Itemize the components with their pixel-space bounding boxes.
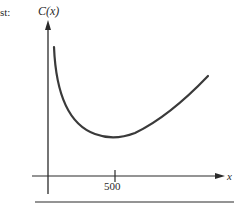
cost-curve <box>54 47 208 137</box>
cost-curve-chart <box>0 0 234 205</box>
y-axis-arrow-icon <box>45 20 51 30</box>
x-axis-label: x <box>227 170 232 182</box>
x-tick-label: 500 <box>104 180 121 192</box>
x-axis-arrow-icon <box>215 173 225 179</box>
